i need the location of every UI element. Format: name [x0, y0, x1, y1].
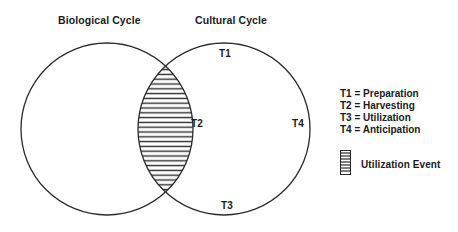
point-t2-label: T2 — [191, 118, 203, 129]
utilization-event-region — [138, 43, 310, 215]
legend-item-t3: T3 = Utilization — [340, 112, 420, 124]
legend-item-t2: T2 = Harvesting — [340, 100, 420, 112]
point-t1-label: T1 — [219, 48, 231, 59]
legend-item-t1: T1 = Preparation — [340, 88, 420, 100]
point-t3-label: T3 — [221, 200, 233, 211]
legend: T1 = Preparation T2 = Harvesting T3 = Ut… — [340, 88, 420, 136]
hatch-legend-label: Utilization Event — [361, 159, 440, 170]
cultural-cycle-title: Cultural Cycle — [195, 14, 267, 26]
legend-item-t4: T4 = Anticipation — [340, 124, 420, 136]
point-t4-label: T4 — [292, 118, 304, 129]
hatch-legend-swatch — [341, 151, 351, 175]
biological-cycle-title: Biological Cycle — [58, 14, 141, 26]
